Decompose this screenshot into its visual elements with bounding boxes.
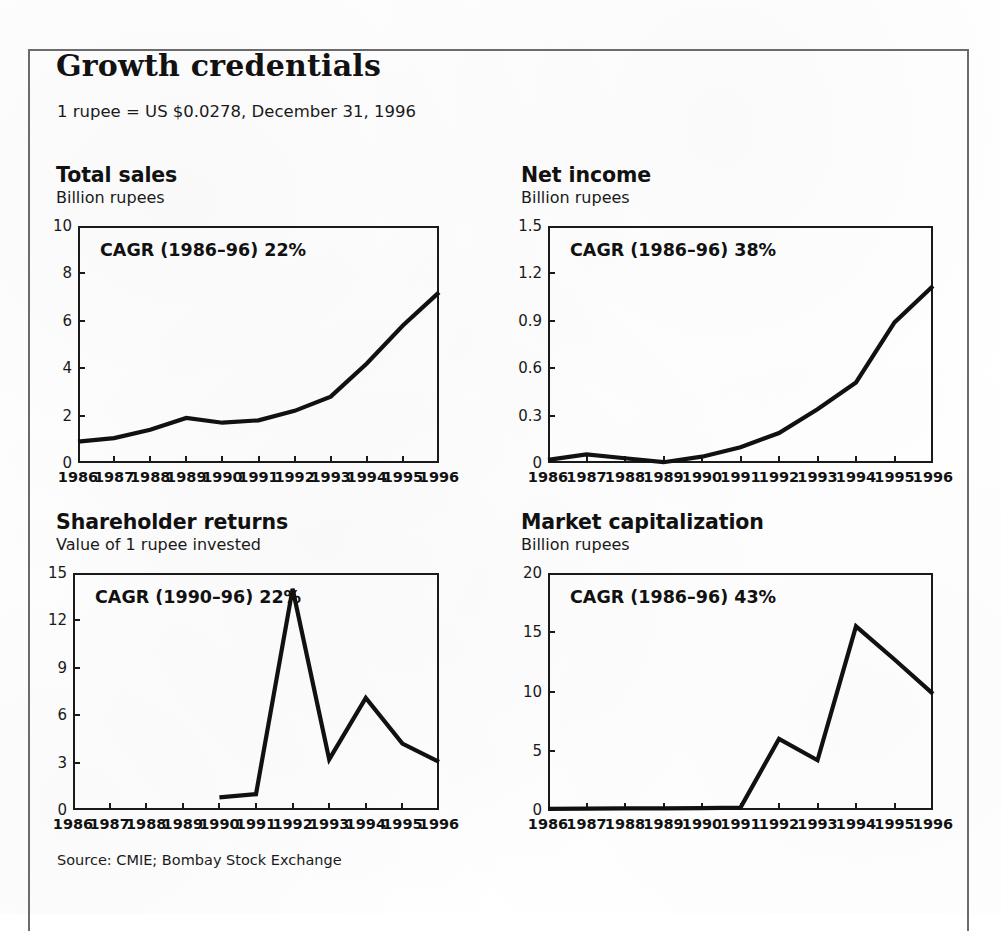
series-line-market-capitalization — [548, 626, 933, 808]
source-note: Source: CMIE; Bombay Stock Exchange — [57, 852, 342, 868]
